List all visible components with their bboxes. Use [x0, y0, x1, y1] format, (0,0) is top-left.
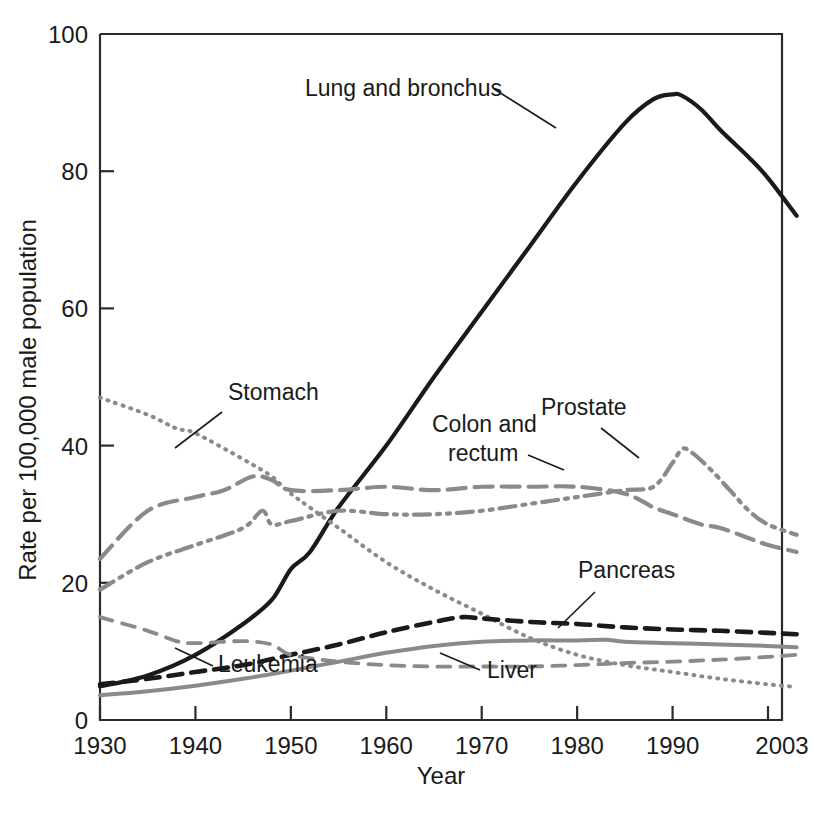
- x-axis-title: Year: [417, 762, 466, 789]
- y-axis-ticks: [100, 171, 114, 583]
- series-line-prostate: [100, 448, 797, 589]
- x-tick-label-1970: 1970: [455, 732, 508, 759]
- series-label-lung-and-bronchus: Lung and bronchus: [305, 75, 502, 101]
- leader-line-colon-and-rectum: [528, 455, 564, 470]
- series-label-colon-and-rectum: Colon andrectum: [432, 411, 537, 466]
- chart-canvas: 020406080100 193019401950196019701980199…: [0, 0, 814, 813]
- x-axis-ticks: [100, 706, 768, 720]
- leader-line-prostate: [601, 428, 639, 458]
- y-axis-tick-labels: 020406080100: [48, 21, 88, 734]
- y-axis-title: Rate per 100,000 male population: [14, 219, 41, 581]
- x-axis-tick-labels: 19301940195019601970198019902003: [73, 732, 808, 759]
- x-tick-label-1980: 1980: [550, 732, 603, 759]
- plot-frame: [100, 34, 782, 720]
- series-labels: Lung and bronchusStomachColon andrectumP…: [218, 75, 675, 683]
- y-tick-label-40: 40: [61, 433, 88, 460]
- y-tick-label-0: 0: [75, 707, 88, 734]
- x-tick-label-1960: 1960: [360, 732, 413, 759]
- x-tick-label-1950: 1950: [264, 732, 317, 759]
- x-tick-label-1990: 1990: [646, 732, 699, 759]
- y-tick-label-60: 60: [61, 295, 88, 322]
- series-label-pancreas: Pancreas: [578, 557, 675, 583]
- x-tick-label-2003: 2003: [755, 732, 808, 759]
- x-tick-label-1940: 1940: [169, 732, 222, 759]
- series-label-prostate: Prostate: [541, 394, 627, 420]
- series-curves: [100, 94, 797, 695]
- leader-line-lung-and-bronchus: [494, 89, 556, 128]
- y-tick-label-100: 100: [48, 21, 88, 48]
- series-label-stomach: Stomach: [228, 379, 319, 405]
- series-line-colon-and-rectum: [100, 476, 797, 559]
- series-label-leukemia: Leukemia: [218, 651, 318, 677]
- y-tick-label-80: 80: [61, 158, 88, 185]
- series-line-lung-and-bronchus: [100, 94, 797, 687]
- cancer-death-rate-line-chart: 020406080100 193019401950196019701980199…: [0, 0, 814, 813]
- y-tick-label-20: 20: [61, 570, 88, 597]
- series-label-liver: Liver: [487, 657, 537, 683]
- x-tick-label-1930: 1930: [73, 732, 126, 759]
